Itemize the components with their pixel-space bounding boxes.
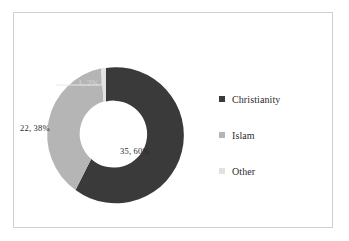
legend-item-christianity[interactable]: Christianity [219,81,331,117]
legend-label-christianity: Christianity [232,94,280,105]
legend-label-other: Other [232,166,255,177]
data-label-islam: 22, 38% [20,123,50,133]
donut-chart-plot-area: 35, 60% 22, 38% 1, 2% [14,13,214,229]
donut-chart-svg [14,13,214,229]
legend-item-other[interactable]: Other [219,153,331,189]
legend-swatch-islam [219,132,225,138]
data-label-other: 1, 2% [78,78,99,88]
legend-label-islam: Islam [232,130,255,141]
legend-item-islam[interactable]: Islam [219,117,331,153]
chart-legend: Christianity Islam Other [219,81,331,189]
chart-frame: 35, 60% 22, 38% 1, 2% Christianity Islam… [13,12,333,228]
legend-swatch-other [219,168,225,174]
legend-swatch-christianity [219,96,225,102]
data-label-christianity: 35, 60% [120,146,150,156]
